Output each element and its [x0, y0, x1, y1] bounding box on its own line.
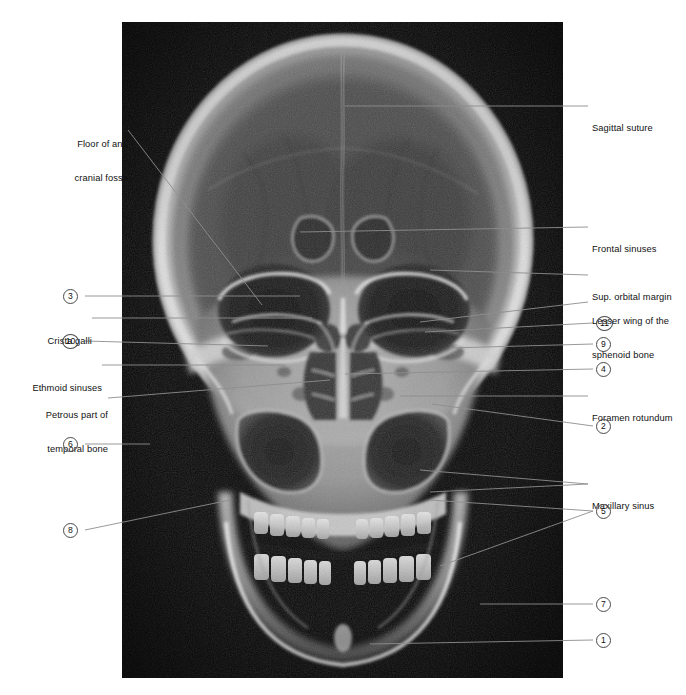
callout-11[interactable]: 11 [596, 316, 613, 331]
callout-2[interactable]: 2 [596, 419, 611, 434]
radiograph-render [122, 22, 563, 678]
label-line: cranial fossa [24, 173, 128, 184]
label-line: temporal bone [14, 444, 108, 455]
callout-4[interactable]: 4 [596, 362, 611, 377]
callout-7[interactable]: 7 [596, 597, 611, 612]
skull-radiograph-image [122, 22, 563, 678]
label-sagittal-suture: Sagittal suture [592, 100, 653, 157]
callout-6[interactable]: 6 [63, 437, 78, 452]
callout-3[interactable]: 3 [63, 289, 78, 304]
callout-8[interactable]: 8 [63, 523, 78, 538]
label-petrous-part-of-temporal-bone: Petrous part of temporal bone [14, 387, 108, 478]
callout-1[interactable]: 1 [596, 633, 611, 648]
label-line: Floor of ant. [24, 139, 128, 150]
label-line: Sagittal suture [592, 123, 653, 134]
callout-5[interactable]: 5 [596, 504, 611, 519]
callout-10[interactable]: 10 [62, 334, 79, 349]
callout-9[interactable]: 9 [596, 337, 611, 352]
label-line: Frontal sinuses [592, 244, 656, 255]
label-line: Crista galli [10, 336, 92, 347]
label-line: Petrous part of [14, 410, 108, 421]
label-floor-of-ant-cranial-fossa: Floor of ant. cranial fossa [24, 116, 128, 207]
figure-root: Floor of ant. cranial fossa Crista galli… [0, 0, 686, 695]
